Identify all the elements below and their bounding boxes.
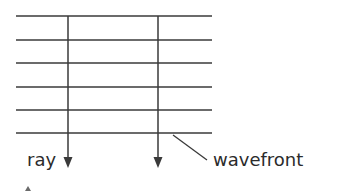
wavefront-lines — [16, 16, 212, 133]
arrow-down-icon — [64, 157, 73, 168]
wavefront-leader-line — [173, 135, 207, 160]
ray-label: ray — [27, 151, 56, 169]
arrow-down-icon — [154, 157, 163, 168]
wavefront-label: wavefront — [213, 151, 303, 169]
rays — [64, 16, 163, 168]
partial-arrow-icon — [25, 186, 31, 191]
